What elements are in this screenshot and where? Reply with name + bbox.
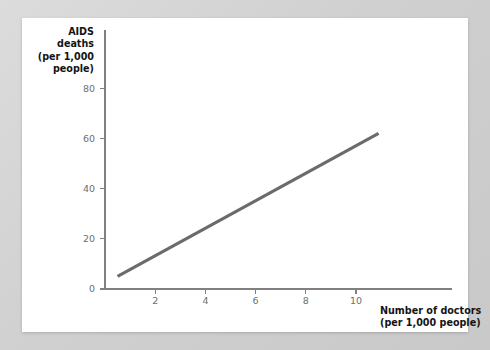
y-tick-label: 0 — [89, 283, 95, 294]
x-axis-title: Number of doctors (per 1,000 people) — [380, 305, 481, 330]
y-tick-label: 60 — [83, 133, 95, 144]
y-axis-title: AIDS deaths (per 1,000 people) — [38, 26, 94, 76]
trend-line — [118, 133, 379, 276]
screenshot-root: 0 20 40 60 80 2 4 6 — [0, 0, 490, 350]
x-tick-label: 6 — [253, 295, 259, 306]
x-axis-tick-labels: 2 4 6 8 10 — [152, 295, 362, 306]
y-tick-label: 20 — [83, 233, 95, 244]
y-tick-label: 80 — [83, 83, 95, 94]
y-tick-label: 40 — [83, 183, 95, 194]
plot-area: 0 20 40 60 80 2 4 6 — [22, 18, 468, 332]
chart-card: 0 20 40 60 80 2 4 6 — [22, 18, 468, 332]
x-axis-ticks — [155, 289, 356, 294]
x-tick-label: 8 — [303, 295, 309, 306]
x-tick-label: 2 — [152, 295, 158, 306]
y-axis-tick-labels: 0 20 40 60 80 — [83, 83, 95, 295]
y-axis-ticks — [100, 88, 105, 289]
x-tick-label: 4 — [202, 295, 208, 306]
x-tick-label: 10 — [350, 295, 362, 306]
